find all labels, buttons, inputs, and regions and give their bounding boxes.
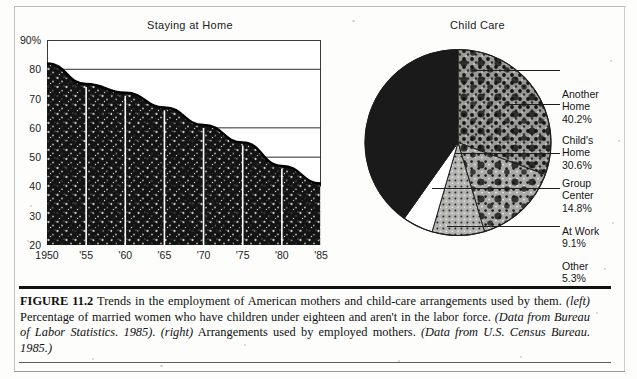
x-axis-tick-1965: '65 xyxy=(158,249,172,261)
figure-number: FIGURE 11.2 xyxy=(20,294,93,308)
x-axis-tick-1960: '60 xyxy=(118,249,132,261)
y-axis-tick-80: 80 xyxy=(29,63,41,75)
y-axis-tick-90pct: 90% xyxy=(20,34,41,46)
legend-label-child-s-home: Child's xyxy=(562,134,593,146)
legend-label-other: Other xyxy=(562,260,588,272)
legend-entry-group-center: GroupCenter14.8% xyxy=(562,177,594,214)
legend-label-at-work: At Work xyxy=(562,225,599,237)
leader-line-child-s-home xyxy=(505,104,560,105)
area-chart-plot xyxy=(47,40,321,245)
legend-entry-other: Other5.3% xyxy=(562,260,588,285)
scan-artifact xyxy=(30,205,32,207)
legend-label-group-center: Group xyxy=(562,177,594,189)
caption-left-text: Percentage of married women who have chi… xyxy=(20,310,495,324)
scan-artifact xyxy=(352,20,355,22)
page-border-right xyxy=(624,6,625,372)
caption-rule-bottom xyxy=(19,362,611,363)
legend-value-child-s-home: 30.6% xyxy=(562,159,593,171)
caption-right-tag: . (right) xyxy=(152,325,193,339)
legend-label-another-home: Another xyxy=(562,88,599,100)
y-axis-tick-70: 70 xyxy=(29,93,41,105)
legend-value-group-center: 14.8% xyxy=(562,202,594,214)
scan-artifact xyxy=(604,268,606,270)
leader-line-at-work xyxy=(432,188,560,189)
x-axis-tick-1955: '55 xyxy=(79,249,93,261)
caption-main: Trends in the employment of American mot… xyxy=(93,294,566,308)
scan-artifact xyxy=(618,140,620,142)
y-axis-tick-40: 40 xyxy=(29,180,41,192)
figure-caption-text: FIGURE 11.2 Trends in the employment of … xyxy=(20,294,590,356)
area-chart-title: Staying at Home xyxy=(147,19,233,31)
x-axis-tick-1980: '80 xyxy=(275,249,289,261)
scan-artifact xyxy=(612,222,614,224)
caption-right-text: Arrangements used by employed mothers. xyxy=(193,325,421,339)
pie-chart xyxy=(358,41,558,244)
leader-line-group-center xyxy=(455,153,560,154)
legend-value-other: 5.3% xyxy=(562,272,588,284)
x-axis-tick-1970: '70 xyxy=(197,249,211,261)
caption-rule-top xyxy=(19,286,611,289)
legend-entry-child-s-home: Child'sHome30.6% xyxy=(562,134,593,171)
figure-page: Staying at Home xyxy=(0,0,637,379)
figure-caption-block: FIGURE 11.2 Trends in the employment of … xyxy=(19,286,611,364)
page-border-bottom xyxy=(14,371,625,372)
caption-left-tag: (left) xyxy=(566,294,590,308)
y-axis-tick-60: 60 xyxy=(29,122,41,134)
legend-label-cont-child-s-home: Home xyxy=(562,146,593,158)
legend-label-cont-group-center: Center xyxy=(562,189,594,201)
legend-value-at-work: 9.1% xyxy=(562,237,599,249)
page-border-top xyxy=(14,6,626,7)
scan-artifact xyxy=(610,60,612,62)
scan-artifact xyxy=(160,365,163,367)
x-axis-tick-1975: '75 xyxy=(236,249,250,261)
x-axis-tick-1950: 1950 xyxy=(35,249,58,261)
pie-chart-plot xyxy=(358,41,558,244)
leader-line-another-home xyxy=(472,70,560,71)
pie-chart-title: Child Care xyxy=(450,19,505,31)
area-chart: 90%80706050403020 1950'55'60'65'70'75'80… xyxy=(47,40,321,245)
page-border-left xyxy=(14,6,15,372)
legend-value-another-home: 40.2% xyxy=(562,113,599,125)
x-axis-tick-1985: '85 xyxy=(314,249,328,261)
y-axis-tick-50: 50 xyxy=(29,151,41,163)
legend-label-cont-another-home: Home xyxy=(562,100,599,112)
y-axis-tick-30: 30 xyxy=(29,210,41,222)
legend-entry-at-work: At Work9.1% xyxy=(562,225,599,250)
leader-line-other xyxy=(447,226,560,227)
legend-entry-another-home: AnotherHome40.2% xyxy=(562,88,599,125)
